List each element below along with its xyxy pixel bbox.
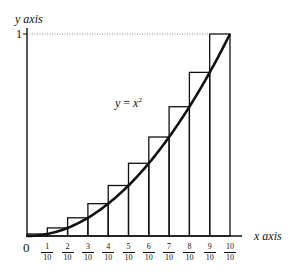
x-tick-label-7: 710 [159, 243, 179, 262]
bar-9 [189, 72, 209, 236]
x-tick-denominator: 10 [119, 253, 139, 262]
x-tick-label-8: 810 [179, 243, 199, 262]
x-tick-numerator: 3 [82, 243, 94, 253]
x-tick-numerator: 1 [41, 243, 53, 253]
x-tick-label-10: 1010 [220, 243, 240, 262]
x-tick-denominator: 10 [78, 253, 98, 262]
x-tick-denominator: 10 [98, 253, 118, 262]
x-tick-denominator: 10 [139, 253, 159, 262]
x-tick-denominator: 10 [220, 253, 240, 262]
curve-label-exponent: 2 [138, 96, 142, 104]
curve-label-eq: = [120, 96, 133, 110]
x-tick-label-6: 610 [139, 243, 159, 262]
origin-label: 0 [23, 240, 30, 256]
x-tick-numerator: 8 [183, 243, 195, 253]
bar-4 [88, 204, 108, 236]
bar-5 [108, 186, 128, 237]
x-tick-numerator: 2 [62, 243, 74, 253]
x-tick-numerator: 7 [163, 243, 175, 253]
y-axis-label: y axis [15, 12, 43, 27]
x-tick-numerator: 6 [143, 243, 155, 253]
y-axis-label-text: y axis [15, 12, 43, 26]
x-tick-denominator: 10 [200, 253, 220, 262]
bar-8 [169, 107, 189, 236]
x-tick-label-2: 210 [58, 243, 78, 262]
x-tick-label-4: 410 [98, 243, 118, 262]
x-tick-numerator: 5 [123, 243, 135, 253]
x-tick-denominator: 10 [37, 253, 57, 262]
x-tick-numerator: 4 [102, 243, 114, 253]
curve-label: y = x2 [115, 96, 142, 111]
x-tick-label-3: 310 [78, 243, 98, 262]
x-tick-denominator: 10 [179, 253, 199, 262]
x-tick-label-5: 510 [119, 243, 139, 262]
x-tick-label-1: 110 [37, 243, 57, 262]
x-tick-denominator: 10 [159, 253, 179, 262]
x-tick-numerator: 10 [224, 243, 236, 253]
x-axis-label: x axis [254, 229, 282, 244]
y-tick-label-1: 1 [16, 27, 22, 42]
upper-sum-rectangles [27, 34, 230, 236]
x-tick-denominator: 10 [58, 253, 78, 262]
x-tick-numerator: 9 [204, 243, 216, 253]
x-tick-label-9: 910 [200, 243, 220, 262]
